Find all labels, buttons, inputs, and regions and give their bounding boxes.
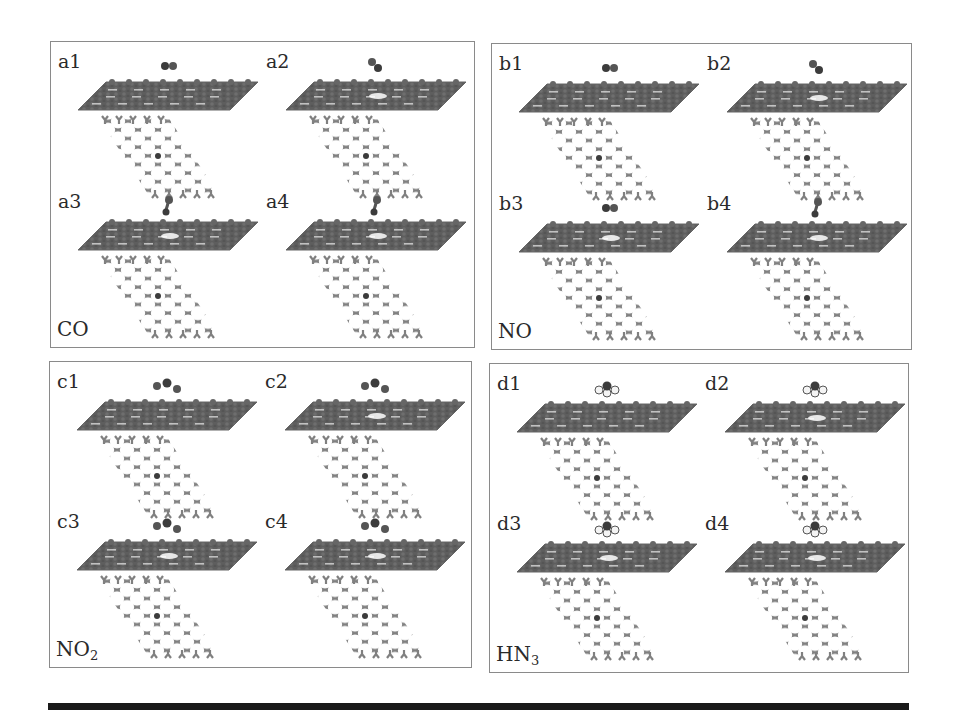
molecule-icon (602, 204, 618, 212)
subpanel-a1: a1 (58, 52, 263, 202)
subpanel-label: c1 (57, 372, 80, 391)
molecule-icon (153, 379, 181, 394)
slab-side-view (78, 79, 258, 110)
subpanel-label: d4 (705, 514, 729, 533)
molecule-icon (361, 519, 389, 534)
structure-diagram (705, 374, 910, 524)
subpanel-label: c4 (265, 512, 288, 531)
subpanel-c2: c2 (265, 372, 470, 522)
molecule-icon (803, 522, 827, 538)
panel-c: c1 c2 c3 c4NO2 (49, 361, 472, 668)
subpanel-label: c3 (57, 512, 80, 531)
slab-side-view (285, 539, 465, 570)
gas-formula: HN (496, 642, 531, 666)
bottom-rule (48, 703, 909, 710)
subpanel-c4: c4 (265, 512, 470, 662)
subpanel-d4: d4 (705, 514, 910, 664)
structure-diagram (266, 192, 471, 342)
molecule-icon (602, 64, 618, 72)
molecule-icon (803, 382, 827, 398)
subpanel-a4: a4 (266, 192, 471, 342)
slab-side-view (78, 219, 258, 250)
subpanel-label: a2 (266, 52, 289, 71)
slab-side-view (725, 401, 905, 432)
slab-side-view (517, 541, 697, 572)
structure-diagram (705, 514, 910, 664)
molecule-icon (368, 58, 382, 72)
slab-side-view (77, 539, 257, 570)
subpanel-label: b3 (499, 194, 523, 213)
subpanel-label: b2 (707, 54, 731, 73)
molecule-icon (595, 522, 619, 538)
slab-side-view (519, 81, 699, 112)
panel-d: d1 d2 d3 d4HN3 (489, 363, 909, 673)
subpanel-b4: b4 (707, 194, 912, 344)
structure-diagram (58, 52, 263, 202)
gas-formula: CO (57, 317, 89, 341)
slab-side-view (286, 219, 466, 250)
subpanel-label: a4 (266, 192, 289, 211)
structure-diagram (266, 52, 471, 202)
subpanel-c1: c1 (57, 372, 262, 522)
slab-side-view (727, 81, 907, 112)
slab-side-view (519, 221, 699, 252)
subpanel-a3: a3 (58, 192, 263, 342)
structure-diagram (707, 54, 912, 204)
slab-side-view (725, 541, 905, 572)
subpanel-label: c2 (265, 372, 288, 391)
structure-diagram (57, 372, 262, 522)
structure-diagram (265, 372, 470, 522)
gas-label: CO (57, 319, 89, 342)
molecule-icon (163, 196, 174, 216)
structure-diagram (497, 374, 702, 524)
slab-side-view (517, 401, 697, 432)
molecule-icon (361, 379, 389, 394)
gas-subscript: 3 (531, 653, 539, 668)
molecule-icon (812, 198, 823, 218)
molecule-icon (595, 382, 619, 398)
subpanel-label: d3 (497, 514, 521, 533)
slab-side-view (727, 221, 907, 252)
molecule-icon (153, 519, 181, 534)
structure-diagram (707, 194, 912, 344)
subpanel-d1: d1 (497, 374, 702, 524)
subpanel-label: b4 (707, 194, 731, 213)
gas-formula: NO (56, 637, 90, 661)
gas-subscript: 2 (90, 648, 98, 663)
subpanel-label: d2 (705, 374, 729, 393)
gas-formula: NO (498, 319, 532, 343)
gas-label: NO2 (56, 639, 98, 662)
structure-diagram (499, 54, 704, 204)
slab-side-view (285, 399, 465, 430)
slab-side-view (77, 399, 257, 430)
subpanel-a2: a2 (266, 52, 471, 202)
structure-diagram (58, 192, 263, 342)
molecule-icon (809, 60, 823, 74)
subpanel-label: b1 (499, 54, 523, 73)
gas-label: HN3 (496, 644, 539, 667)
subpanel-label: a1 (58, 52, 81, 71)
subpanel-b1: b1 (499, 54, 704, 204)
panel-b: b1 b2 b3 b4NO (491, 43, 912, 350)
subpanel-d2: d2 (705, 374, 910, 524)
panel-a: a1 a2 a3 a4CO (50, 41, 475, 348)
molecule-icon (371, 196, 382, 216)
subpanel-label: a3 (58, 192, 81, 211)
subpanel-label: d1 (497, 374, 521, 393)
molecule-icon (161, 62, 177, 70)
slab-side-view (286, 79, 466, 110)
subpanel-b2: b2 (707, 54, 912, 204)
gas-label: NO (498, 321, 532, 344)
structure-diagram (265, 512, 470, 662)
